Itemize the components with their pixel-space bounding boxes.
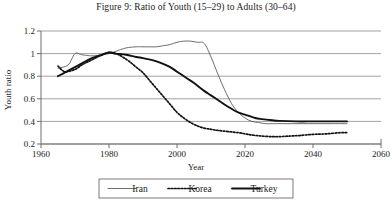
x-tick-label: 2060 [372, 149, 391, 159]
x-axis-ticks [41, 144, 381, 148]
y-tick-label: 0.2 [24, 139, 35, 149]
y-axis-tick-labels: 0.20.40.60.811.2 [24, 26, 36, 149]
x-axis-title: Year [188, 162, 205, 172]
x-tick-label: 1960 [32, 149, 51, 159]
y-tick-label: 1.2 [24, 26, 35, 36]
figure-container: Figure 9: Ratio of Youth (15–29) to Adul… [0, 0, 392, 205]
youth-ratio-line-chart: 196019802000202020402060 0.20.40.60.811.… [0, 0, 392, 205]
x-axis-tick-labels: 196019802000202020402060 [32, 149, 391, 159]
x-tick-label: 1980 [100, 149, 119, 159]
y-tick-label: 0.4 [24, 117, 36, 127]
chart-legend: IranKoreaTurkey [99, 179, 293, 198]
y-tick-label: 0.8 [24, 71, 36, 81]
y-axis-ticks [37, 31, 41, 144]
axis-frame [41, 31, 381, 144]
y-axis-title: Youth ratio [3, 69, 13, 110]
series-line-turkey [58, 52, 347, 121]
gridlines [41, 31, 381, 144]
legend-label-iran: Iran [132, 184, 148, 194]
legend-label-turkey: Turkey [250, 184, 277, 194]
x-tick-label: 2000 [168, 149, 187, 159]
x-tick-label: 2020 [236, 149, 255, 159]
data-series-group [58, 41, 347, 137]
y-tick-label: 0.6 [24, 94, 36, 104]
y-tick-label: 1 [31, 49, 36, 59]
legend-label-korea: Korea [188, 184, 212, 194]
x-tick-label: 2040 [304, 149, 323, 159]
